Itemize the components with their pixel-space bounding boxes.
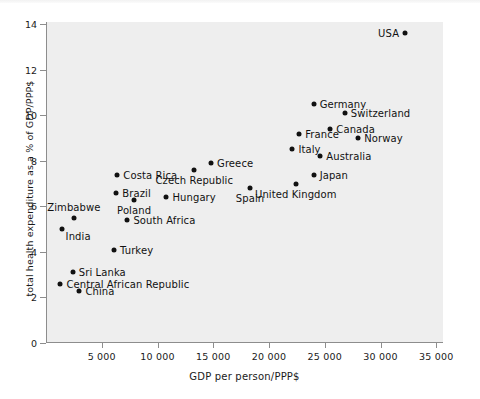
- x-tick-label: 25 000: [308, 351, 342, 362]
- x-tick-mark: [102, 343, 103, 348]
- data-point: [164, 195, 169, 200]
- data-point-label: Poland: [117, 204, 151, 215]
- scatter-chart-figure: 02468101214 5 00010 00015 00020 00025 00…: [0, 0, 480, 399]
- x-tick-label: 20 000: [252, 351, 286, 362]
- data-point: [132, 197, 137, 202]
- x-tick-mark: [436, 343, 437, 348]
- data-point: [356, 136, 361, 141]
- data-point-label: Norway: [364, 133, 403, 144]
- data-point: [248, 186, 253, 191]
- data-point-label: Zimbabwe: [47, 201, 100, 212]
- plot-area: 02468101214 5 00010 00015 00020 00025 00…: [46, 22, 443, 343]
- x-tick-label: 30 000: [363, 351, 397, 362]
- data-point-label: India: [66, 231, 91, 242]
- y-tick-mark: [40, 252, 46, 253]
- data-point-label: Hungary: [172, 192, 215, 203]
- data-point-label: Costa Rica: [123, 169, 177, 180]
- data-point: [58, 281, 63, 286]
- y-tick-mark: [40, 24, 46, 25]
- data-point-label: China: [85, 285, 114, 296]
- x-tick-label: 5 000: [88, 351, 116, 362]
- data-point: [192, 167, 197, 172]
- y-tick-mark: [40, 115, 46, 116]
- x-tick-label: 15 000: [196, 351, 230, 362]
- y-tick-mark: [40, 297, 46, 298]
- data-point-label: Australia: [326, 151, 371, 162]
- data-point: [209, 161, 214, 166]
- data-point: [115, 172, 120, 177]
- data-point-label: Brazil: [122, 187, 151, 198]
- y-axis-title: total health expenditure as a % of GDP/P…: [24, 64, 35, 314]
- y-tick-label: 14: [25, 19, 37, 30]
- data-point: [125, 218, 130, 223]
- data-point: [70, 270, 75, 275]
- y-tick-mark: [40, 343, 46, 344]
- data-point-label: Turkey: [120, 244, 153, 255]
- data-point-label: Japan: [320, 169, 348, 180]
- y-tick-label: 0: [31, 338, 37, 349]
- data-point-label: Sri Lanka: [79, 267, 126, 278]
- data-point: [342, 111, 347, 116]
- data-point-label: Switzerland: [351, 108, 410, 119]
- data-point-label: United Kingdom: [255, 188, 337, 199]
- data-point: [112, 247, 117, 252]
- data-point: [71, 215, 76, 220]
- data-point: [311, 172, 316, 177]
- data-point-label: Greece: [217, 158, 253, 169]
- figure-top-edge: [0, 0, 480, 3]
- data-point: [59, 227, 64, 232]
- data-point-label: Spain: [236, 193, 264, 204]
- data-point-label: South Africa: [133, 215, 195, 226]
- x-tick-mark: [158, 343, 159, 348]
- data-point-label: France: [305, 128, 339, 139]
- y-tick-mark: [40, 206, 46, 207]
- x-tick-mark: [381, 343, 382, 348]
- x-tick-mark: [213, 343, 214, 348]
- data-point-label: Italy: [298, 144, 320, 155]
- data-point: [77, 288, 82, 293]
- y-tick-mark: [40, 70, 46, 71]
- data-point: [297, 131, 302, 136]
- x-tick-label: 35 000: [419, 351, 453, 362]
- data-point: [114, 190, 119, 195]
- data-point: [311, 101, 316, 106]
- x-tick-mark: [325, 343, 326, 348]
- data-point: [293, 181, 298, 186]
- x-axis-title: GDP per person/PPP$: [46, 371, 443, 382]
- y-axis-line: [46, 22, 47, 343]
- data-point-label: USA: [378, 28, 399, 39]
- x-tick-mark: [269, 343, 270, 348]
- y-tick-mark: [40, 161, 46, 162]
- data-point: [318, 154, 323, 159]
- data-point: [403, 31, 408, 36]
- x-tick-label: 10 000: [140, 351, 174, 362]
- data-point: [290, 147, 295, 152]
- x-axis-line: [46, 342, 443, 343]
